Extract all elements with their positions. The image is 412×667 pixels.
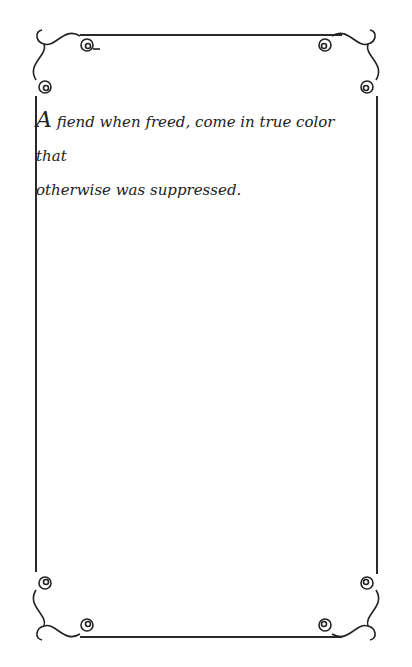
frame-right-border <box>376 96 378 574</box>
ornament-top-right-icon <box>308 14 398 104</box>
frame-top-border <box>80 34 342 36</box>
quote-text: A fiend when freed, come in true color t… <box>36 103 366 207</box>
quote-line-2: otherwise was suppressed. <box>36 173 366 207</box>
frame-bottom-border <box>80 636 342 638</box>
quote-line-1-text: fiend when freed, come in true color tha… <box>36 113 334 165</box>
ornament-bottom-left-icon <box>14 566 104 656</box>
ornament-top-left-icon <box>14 14 104 104</box>
ornament-bottom-right-icon <box>308 566 398 656</box>
quote-line-1: A fiend when freed, come in true color t… <box>36 103 366 173</box>
drop-cap: A <box>36 107 52 132</box>
